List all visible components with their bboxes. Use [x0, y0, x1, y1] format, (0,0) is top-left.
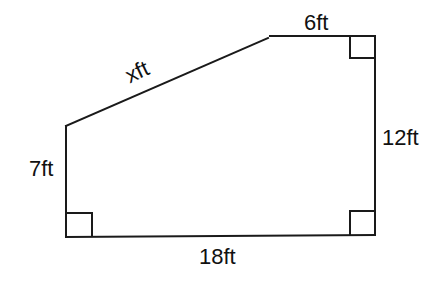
label-bottom: 18ft — [199, 244, 236, 269]
right-angle-marker-top-right — [350, 36, 375, 58]
label-left: 7ft — [29, 156, 53, 181]
label-right: 12ft — [382, 125, 419, 150]
bottom-edge — [66, 235, 375, 237]
label-top: 6ft — [304, 10, 328, 35]
right-angle-marker-bottom-right — [350, 211, 375, 235]
label-slant: xft — [121, 55, 153, 87]
slant-edge — [66, 38, 268, 126]
right-angle-marker-bottom-left — [66, 213, 92, 237]
trapezoid-diagram: 6ft xft 7ft 12ft 18ft — [0, 0, 448, 282]
